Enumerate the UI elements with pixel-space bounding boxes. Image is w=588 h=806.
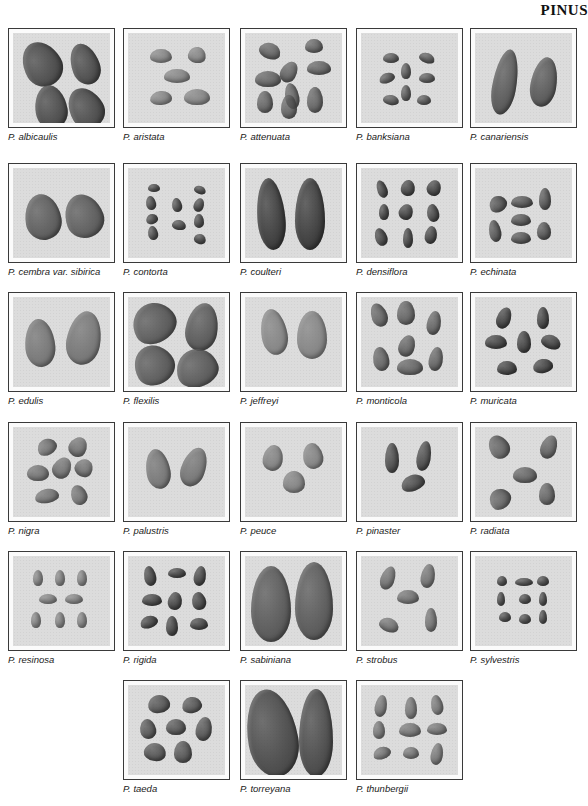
seed-plate-cembra-var-sibirica: P. cembra var. sibirica bbox=[8, 163, 115, 277]
seed-image bbox=[425, 178, 444, 198]
seed-plate-aristata: P. aristata bbox=[123, 28, 230, 142]
plate-frame bbox=[356, 551, 463, 651]
seed-photo bbox=[361, 33, 458, 123]
seed-image bbox=[72, 456, 97, 481]
seed-image bbox=[425, 608, 437, 632]
plate-frame bbox=[470, 163, 577, 263]
seed-image bbox=[176, 444, 212, 490]
seed-photo bbox=[361, 556, 458, 646]
seed-photo bbox=[245, 33, 342, 123]
seed-image bbox=[397, 301, 415, 325]
seed-image bbox=[511, 196, 533, 208]
seed-image bbox=[372, 226, 389, 247]
seed-image bbox=[373, 694, 389, 718]
seed-image bbox=[511, 232, 531, 244]
species-label: P. sabiniana bbox=[240, 654, 347, 665]
seed-image bbox=[164, 69, 190, 83]
seed-plate-jeffreyi: P. jeffreyi bbox=[240, 292, 347, 406]
seed-image bbox=[166, 719, 186, 735]
seed-image bbox=[499, 612, 511, 622]
seed-image bbox=[166, 616, 178, 636]
seed-plate-nigra: P. nigra bbox=[8, 422, 115, 536]
seed-plate-contorta: P. contorta bbox=[123, 163, 230, 277]
seed-image bbox=[419, 563, 437, 589]
seed-image bbox=[487, 219, 503, 243]
seed-image bbox=[281, 95, 297, 119]
seed-image bbox=[400, 179, 417, 197]
seed-image bbox=[374, 179, 390, 199]
seed-image bbox=[425, 310, 443, 336]
seed-image bbox=[128, 297, 183, 351]
seed-image bbox=[295, 178, 325, 250]
seed-image bbox=[31, 83, 70, 123]
seed-image bbox=[426, 203, 441, 223]
seed-image bbox=[497, 576, 507, 586]
seed-image bbox=[257, 307, 291, 357]
seed-image bbox=[193, 232, 208, 246]
seed-photo bbox=[245, 685, 342, 775]
seed-image bbox=[251, 566, 291, 642]
plate-frame bbox=[356, 292, 463, 392]
species-label: P. torreyana bbox=[240, 783, 347, 794]
seed-image bbox=[184, 89, 210, 105]
seed-image bbox=[255, 71, 281, 87]
species-label: P. muricata bbox=[470, 395, 577, 406]
seed-plate-rigida: P. rigida bbox=[123, 551, 230, 665]
seed-image bbox=[396, 333, 419, 359]
species-label: P. palustris bbox=[123, 525, 230, 536]
seed-plate-coulteri: P. coulteri bbox=[240, 163, 347, 277]
seed-plate-palustris: P. palustris bbox=[123, 422, 230, 536]
seed-image bbox=[283, 471, 305, 493]
plate-frame bbox=[240, 551, 347, 651]
seed-image bbox=[497, 361, 517, 375]
plate-frame bbox=[356, 28, 463, 128]
seed-plate-radiata: P. radiata bbox=[470, 422, 577, 536]
seed-image bbox=[55, 612, 65, 628]
species-label: P. flexilis bbox=[123, 395, 230, 406]
plate-frame bbox=[8, 163, 115, 263]
seed-image bbox=[424, 225, 439, 245]
plate-frame bbox=[8, 28, 115, 128]
page-header: PINUS bbox=[540, 2, 588, 19]
seed-photo bbox=[245, 297, 342, 387]
plate-frame bbox=[240, 680, 347, 780]
seed-image bbox=[377, 564, 398, 591]
seed-image bbox=[138, 613, 159, 630]
seed-image bbox=[34, 487, 60, 505]
seed-image bbox=[382, 94, 399, 107]
seed-plate-canariensis: P. canariensis bbox=[470, 28, 577, 142]
species-label: P. sylvestris bbox=[470, 654, 577, 665]
seed-plate-muricata: P. muricata bbox=[470, 292, 577, 406]
seed-plate-sylvestris: P. sylvestris bbox=[470, 551, 577, 665]
seed-image bbox=[21, 191, 64, 243]
seed-image bbox=[485, 484, 515, 513]
species-label: P. monticola bbox=[356, 395, 463, 406]
seed-image bbox=[385, 443, 399, 473]
seed-image bbox=[305, 39, 323, 53]
species-label: P. densiflora bbox=[356, 266, 463, 277]
plate-frame bbox=[356, 422, 463, 522]
seed-image bbox=[397, 202, 416, 222]
seed-image bbox=[494, 305, 515, 330]
seed-image bbox=[65, 39, 106, 88]
plate-frame bbox=[123, 163, 230, 263]
seed-image bbox=[148, 184, 160, 192]
plate-frame bbox=[8, 551, 115, 651]
seed-image bbox=[301, 441, 325, 470]
seed-photo bbox=[361, 168, 458, 258]
seed-plate-flexilis: P. flexilis bbox=[123, 292, 230, 406]
seed-image bbox=[383, 53, 399, 63]
seed-image bbox=[373, 721, 385, 739]
seed-image bbox=[257, 91, 273, 113]
seed-image bbox=[77, 612, 87, 628]
seed-image bbox=[61, 81, 110, 123]
seed-plate-echinata: P. echinata bbox=[470, 163, 577, 277]
seed-plate-banksiana: P. banksiana bbox=[356, 28, 463, 142]
seed-image bbox=[145, 195, 157, 211]
species-label: P. taeda bbox=[123, 783, 230, 794]
seed-image bbox=[539, 188, 551, 210]
seed-image bbox=[59, 189, 110, 243]
seed-photo bbox=[245, 556, 342, 646]
seed-image bbox=[193, 184, 207, 196]
species-label: P. coulteri bbox=[240, 266, 347, 277]
